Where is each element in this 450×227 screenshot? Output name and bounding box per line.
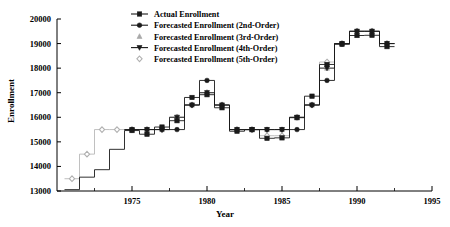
x-tick-label: 1990 <box>349 196 366 206</box>
chart-canvas: 1300014000150001600017000180001900020000… <box>0 0 450 227</box>
data-point <box>250 127 254 131</box>
y-axis-label-wrap: Enrollment <box>2 0 18 227</box>
data-point <box>355 33 359 37</box>
y-axis-label: Enrollment <box>6 66 16 136</box>
y-tick-label: 14000 <box>30 161 51 171</box>
legend-label: Forecasted Enrollment (2nd-Order) <box>154 21 279 30</box>
data-point <box>205 93 209 97</box>
y-tick-label: 17000 <box>30 88 51 98</box>
data-point <box>84 151 89 157</box>
y-tick-label: 20000 <box>30 14 51 24</box>
x-axis-label: Year <box>0 209 450 219</box>
enrollment-chart: 1300014000150001600017000180001900020000… <box>0 0 450 227</box>
data-point <box>130 128 134 132</box>
data-point <box>190 95 194 99</box>
legend-label: Forecasted Enrollment (3rd-Order) <box>154 33 279 42</box>
x-tick-label: 1995 <box>424 196 441 206</box>
legend-label: Forecasted Enrollment (4th-Order) <box>154 44 278 53</box>
y-tick-label: 15000 <box>30 137 51 147</box>
data-point <box>114 127 119 133</box>
data-point <box>145 132 149 136</box>
data-point <box>220 106 224 110</box>
data-point <box>340 42 344 46</box>
data-point <box>355 29 360 34</box>
y-tick-label: 19000 <box>30 39 51 49</box>
y-tick-label: 18000 <box>30 63 51 73</box>
data-point <box>175 119 179 123</box>
data-point <box>265 136 269 140</box>
data-point <box>190 103 195 108</box>
data-point <box>99 127 104 133</box>
data-point <box>235 129 239 133</box>
data-point <box>265 127 270 132</box>
x-tick-label: 1975 <box>124 196 141 206</box>
x-tick-label: 1985 <box>274 196 291 206</box>
data-point <box>325 78 330 83</box>
data-point <box>69 176 74 182</box>
data-point <box>325 62 329 66</box>
data-point <box>160 125 164 129</box>
data-point <box>310 94 314 98</box>
data-point <box>175 127 180 132</box>
data-point <box>137 23 142 28</box>
data-point <box>310 103 315 108</box>
data-point <box>295 115 299 119</box>
legend-label: Actual Enrollment <box>154 10 219 19</box>
x-tick-label: 1980 <box>199 196 216 206</box>
data-point <box>280 136 284 140</box>
data-point <box>385 44 389 48</box>
data-point <box>295 127 300 132</box>
data-point <box>205 78 210 83</box>
legend: Actual EnrollmentForecasted Enrollment (… <box>131 10 279 64</box>
y-tick-label: 16000 <box>30 112 51 122</box>
data-point <box>145 127 150 132</box>
data-point <box>137 56 142 62</box>
data-point <box>370 33 374 37</box>
data-point <box>137 12 141 16</box>
y-tick-label: 13000 <box>30 186 51 196</box>
data-point <box>280 127 285 132</box>
legend-label: Forecasted Enrollment (5th-Order) <box>154 55 278 64</box>
